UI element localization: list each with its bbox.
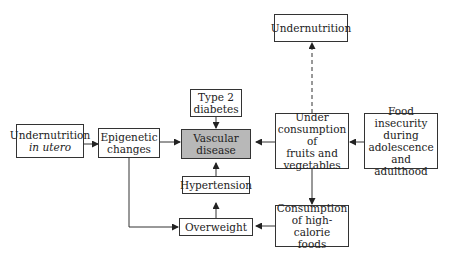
node-label: adolescence xyxy=(368,141,433,153)
node-food-insecurity: Food insecurity during adolescence and a… xyxy=(364,113,438,169)
node-label-italic: in utero xyxy=(29,141,71,153)
node-label: changes xyxy=(107,143,151,155)
node-vascular-disease: Vascular disease xyxy=(181,129,251,159)
node-label: consumption of xyxy=(276,123,348,147)
arrow-epigenetic-to-overweight xyxy=(129,158,178,227)
node-type2-diabetes: Type 2 diabetes xyxy=(190,89,242,117)
node-label: Overweight xyxy=(185,221,247,233)
node-label: Undernutrition xyxy=(271,22,351,34)
node-label: Hypertension xyxy=(180,179,252,191)
node-label: Vascular xyxy=(193,132,239,144)
node-label: Epigenetic xyxy=(100,131,157,143)
node-label: Consumption xyxy=(277,202,348,214)
node-label: Under xyxy=(295,111,329,123)
node-under-consumption: Under consumption of fruits and vegetabl… xyxy=(275,113,349,169)
node-label: diabetes xyxy=(193,103,238,115)
node-label: Type 2 xyxy=(198,91,234,103)
node-label: during xyxy=(383,129,418,141)
node-overweight: Overweight xyxy=(179,218,253,236)
node-label: disease xyxy=(196,144,236,156)
node-label: fruits and xyxy=(286,147,338,159)
node-label: vegetables xyxy=(283,159,340,171)
node-label: of high-calorie xyxy=(276,214,348,238)
node-epigenetic-changes: Epigenetic changes xyxy=(98,128,160,158)
node-label: Undernutrition xyxy=(10,129,90,141)
node-undernutrition-in-utero: Undernutrition in utero xyxy=(16,124,84,158)
node-label: Food insecurity xyxy=(365,105,437,129)
node-label: foods xyxy=(298,238,327,250)
node-hypertension: Hypertension xyxy=(182,176,250,194)
node-label: and adulthood xyxy=(365,153,437,177)
node-undernutrition: Undernutrition xyxy=(274,14,348,42)
node-high-calorie-foods: Consumption of high-calorie foods xyxy=(275,205,349,247)
